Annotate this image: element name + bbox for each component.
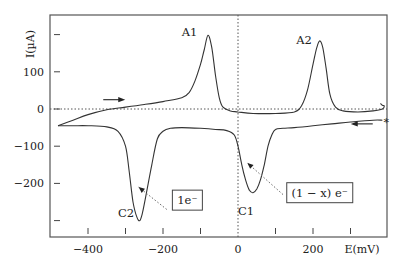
electron-count-box: 1e⁻: [172, 190, 202, 210]
x-tick-label: 200: [303, 243, 324, 256]
y-tick-label: 0: [37, 103, 44, 116]
electron-count-box: (1 − x) e⁻: [287, 183, 353, 203]
pointer-arrowhead-icon: [139, 187, 145, 193]
pointer-arrowhead-icon: [247, 163, 253, 169]
peak-label-a2: A2: [295, 33, 312, 47]
y-tick-label: 100: [23, 66, 44, 79]
y-axis-label: I(µA): [24, 30, 37, 58]
y-tick-label: −100: [14, 140, 44, 153]
anodic-scan-curve: [58, 35, 384, 125]
x-tick-label: 0: [235, 243, 242, 256]
x-tick-label: −200: [148, 243, 178, 256]
peak-label-a1: A1: [181, 25, 198, 39]
peak-label-c1: C1: [238, 204, 254, 218]
cyclic-voltammogram-chart: 1000−100−200−400−2000200 A1A2C2C11e⁻(1 −…: [0, 0, 408, 274]
electron-pointer-line: [247, 163, 283, 195]
x-axis-label: E(mV): [345, 243, 380, 256]
electron-count-label: (1 − x) e⁻: [292, 186, 348, 200]
y-tick-label: −200: [14, 177, 44, 190]
electron-count-label: 1e⁻: [177, 193, 197, 207]
x-tick-label: −400: [73, 243, 103, 256]
arrow-right-icon: [118, 97, 125, 102]
peak-label-c2: C2: [118, 206, 134, 220]
scan-start-asterisk: *: [383, 116, 389, 129]
axis-tick-labels: 1000−100−200−400−2000200: [14, 66, 324, 256]
cathodic-scan-curve: [58, 120, 382, 221]
